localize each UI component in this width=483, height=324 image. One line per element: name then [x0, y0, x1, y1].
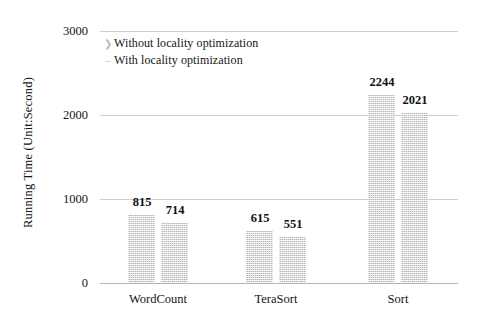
y-tick-label-1000: 1000	[28, 192, 88, 207]
legend: ❯ Without locality optimization ‒ With l…	[101, 35, 258, 69]
bar-wordcount-with-locality-optimization[interactable]	[161, 223, 188, 283]
legend-item-with-locality-optimization[interactable]: ‒ With locality optimization	[101, 52, 258, 69]
x-tick-label-wordcount: WordCount	[98, 292, 218, 307]
bar-value-label-sort-with: 2021	[388, 93, 442, 108]
axis-baseline-0	[100, 283, 458, 284]
legend-label-with: With locality optimization	[114, 53, 243, 68]
y-tick-label-3000: 3000	[28, 24, 88, 39]
x-tick-label-sort: Sort	[338, 292, 458, 307]
legend-marker-without-icon: ❯	[101, 39, 114, 49]
y-tick-label-2000: 2000	[28, 108, 88, 123]
legend-label-without: Without locality optimization	[114, 36, 258, 51]
bar-group-sort: 2244 2021	[368, 31, 428, 283]
bar-chart-figure: Running Time (Unit:Second) 3000 2000 100…	[0, 0, 483, 324]
bar-value-label-wordcount-with: 714	[148, 203, 202, 218]
legend-marker-with-icon: ‒	[101, 56, 114, 66]
x-tick-label-terasort: TeraSort	[216, 292, 336, 307]
y-tick-label-0: 0	[28, 276, 88, 291]
bar-terasort-with-locality-optimization[interactable]	[279, 237, 306, 283]
y-axis-label: Running Time (Unit:Second)	[21, 33, 36, 273]
bar-sort-with-locality-optimization[interactable]	[401, 113, 428, 283]
bar-wordcount-without-locality-optimization[interactable]	[128, 215, 155, 283]
bar-terasort-without-locality-optimization[interactable]	[246, 231, 273, 283]
bar-value-label-terasort-with: 551	[266, 217, 320, 232]
bar-sort-without-locality-optimization[interactable]	[368, 95, 395, 284]
legend-item-without-locality-optimization[interactable]: ❯ Without locality optimization	[101, 35, 258, 52]
bar-value-label-sort-without: 2244	[355, 75, 409, 90]
